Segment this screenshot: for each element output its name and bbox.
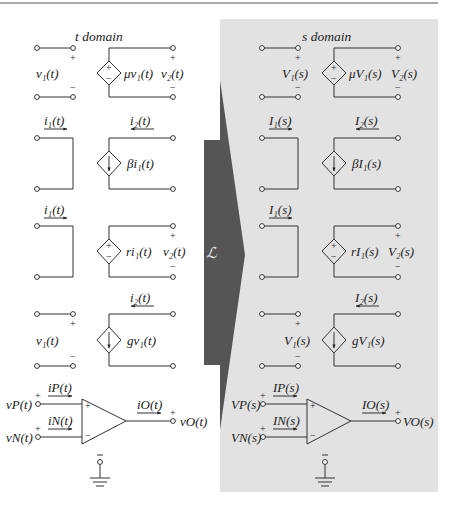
t-opamp-vn-plus: + — [35, 424, 41, 434]
s-vccs-v-in: V₁(s) — [284, 334, 310, 347]
t-vcvs-diamond-minus: − — [106, 74, 112, 84]
s-domain-title: s domain — [302, 30, 351, 44]
s-vccs-in-plus: + — [295, 319, 301, 329]
t-vccs-in-minus: − — [70, 352, 76, 362]
s-ccvs-out-plus: + — [395, 231, 401, 241]
t-vcvs-v-in: v₁(t) — [36, 67, 59, 80]
t-cccs-i-out: i₂(t) — [130, 114, 150, 127]
t-vcvs-out-plus: + — [170, 53, 176, 63]
s-opamp-vn: VN(s) — [231, 431, 261, 444]
t-ccvs-gain: ri₁(t) — [126, 245, 151, 258]
s-vccs-gain: gV₁(s) — [352, 334, 385, 347]
t-vcvs-in-minus: − — [70, 83, 76, 93]
s-vcvs-out-plus: + — [395, 53, 401, 63]
t-opamp-in-plus-sign: + — [85, 401, 91, 411]
s-opamp-vo: VO(s) — [403, 415, 434, 428]
t-ccvs-diamond-plus: + — [106, 241, 112, 251]
t-ccvs-v-out: v₂(t) — [163, 245, 186, 258]
s-vcvs-diamond-minus: − — [331, 74, 337, 84]
s-ccvs-out-minus: − — [395, 262, 401, 272]
t-vcvs-in-plus: + — [70, 53, 76, 63]
s-opamp-vp-plus: + — [260, 391, 266, 401]
s-ccvs-gain: rI₁(s) — [351, 245, 379, 258]
s-cccs-gain: βI₁(s) — [352, 157, 381, 170]
t-opamp-io: iO(t) — [137, 398, 162, 411]
s-opamp-in: IN(s) — [273, 414, 300, 427]
t-cccs-gain: βi₁(t) — [127, 157, 154, 170]
s-vcvs-in-plus: + — [295, 53, 301, 63]
s-vccs-in-minus: − — [295, 352, 301, 362]
t-vccs-gain: gv₁(t) — [127, 334, 156, 347]
t-vcvs-out-minus: − — [170, 83, 176, 93]
s-vcvs-v-out: V₂(s) — [391, 67, 417, 80]
t-opamp-ip: iP(t) — [48, 381, 72, 394]
t-ccvs-out-minus: − — [170, 262, 176, 272]
t-ccvs-out-plus: + — [170, 231, 176, 241]
s-opamp-in-plus-sign: + — [310, 401, 316, 411]
t-cccs-i-in: i₁(t) — [44, 114, 64, 127]
s-opamp-vp: VP(s) — [231, 398, 261, 411]
t-ccvs-diamond-minus: − — [106, 252, 112, 262]
s-vcvs-gain: μV₁(s) — [349, 67, 382, 80]
t-opamp-vo: vO(t) — [180, 415, 207, 428]
s-vcvs-diamond-plus: + — [331, 63, 337, 73]
t-vcvs-v-out: v₂(t) — [161, 67, 184, 80]
s-ccvs-v-out: V₂(s) — [388, 245, 414, 258]
s-opamp-vo-plus: + — [395, 408, 401, 418]
s-ccvs-diamond-minus: − — [331, 252, 337, 262]
s-ccvs-i-in: I₁(s) — [269, 203, 292, 216]
t-vccs-i-out: i₂(t) — [130, 291, 150, 304]
diagram-canvas: ℒ t domain + v₁(t) − + − μv₁(t) + v₂(t) … — [0, 0, 463, 506]
s-opamp-io: IO(s) — [362, 398, 389, 411]
t-opamp-vp: vP(t) — [6, 398, 32, 411]
s-opamp-ip: IP(s) — [273, 381, 299, 394]
t-opamp-in: iN(t) — [48, 414, 73, 427]
s-vcvs-out-minus: − — [395, 83, 401, 93]
s-cccs-i-in: I₁(s) — [269, 114, 292, 127]
s-opamp-in-minus-sign: − — [310, 431, 316, 441]
t-vccs-v-in: v₁(t) — [36, 334, 59, 347]
t-opamp-vp-plus: + — [35, 391, 41, 401]
t-ccvs-i-in: i₁(t) — [44, 203, 64, 216]
s-vccs-i-out: I₂(s) — [355, 291, 378, 304]
t-cccs — [35, 129, 176, 191]
s-cccs-i-out: I₂(s) — [355, 114, 378, 127]
t-opamp-vo-plus: + — [170, 408, 176, 418]
s-vcvs-v-in: V₁(s) — [282, 67, 308, 80]
t-ccvs — [35, 218, 176, 279]
s-ccvs-diamond-plus: + — [331, 241, 337, 251]
t-opamp-vn: vN(t) — [6, 431, 33, 444]
t-domain-title: t domain — [75, 30, 123, 44]
t-vcvs-diamond-plus: + — [106, 63, 112, 73]
s-vcvs-in-minus: − — [295, 83, 301, 93]
laplace-symbol: ℒ — [206, 244, 217, 262]
t-vcvs-gain: μv₁(t) — [124, 67, 153, 80]
t-vccs-in-plus: + — [70, 319, 76, 329]
t-opamp-in-minus-sign: − — [85, 431, 91, 441]
